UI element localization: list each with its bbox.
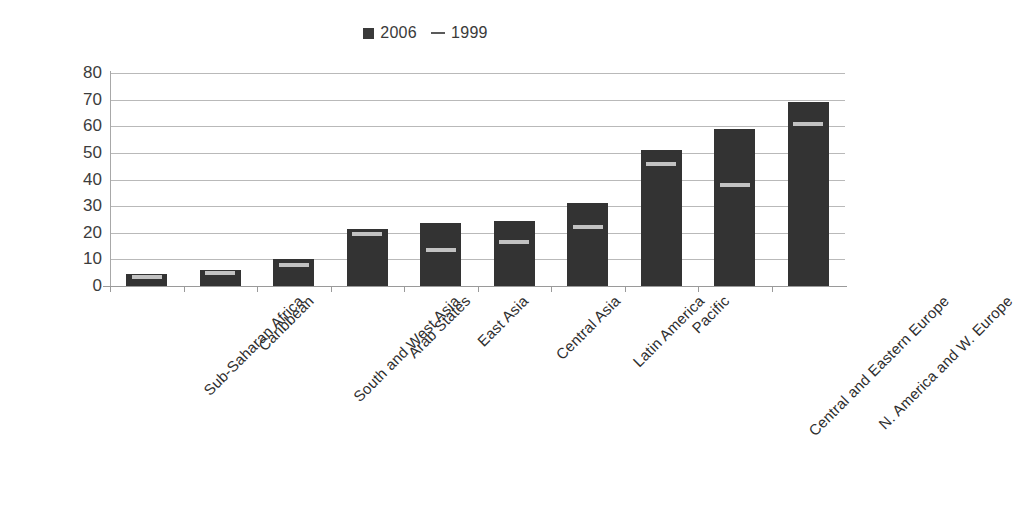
marker-1999 [499, 240, 529, 244]
marker-1999 [279, 263, 309, 267]
bar-group [698, 73, 772, 286]
marker-1999 [646, 162, 676, 166]
marker-1999 [352, 232, 382, 236]
x-axis-category-labels: Sub-Saharan AfricaCaribbeanSouth and Wes… [110, 292, 845, 492]
bar-2006[interactable] [641, 150, 682, 286]
marker-1999 [426, 248, 456, 252]
bar-group [110, 73, 184, 286]
bar-2006[interactable] [788, 102, 829, 286]
y-axis-tick-labels: 80706050403020100 [58, 64, 102, 286]
y-axis-tick-label: 0 [93, 276, 102, 296]
y-axis-tick-label: 80 [83, 63, 102, 83]
bar-2006[interactable] [347, 229, 388, 286]
marker-1999 [793, 122, 823, 126]
y-axis-tick-label: 30 [83, 196, 102, 216]
y-axis-tick-label: 10 [83, 249, 102, 269]
bar-group [257, 73, 331, 286]
bar-2006[interactable] [494, 221, 535, 286]
bar-2006[interactable] [714, 129, 755, 286]
bar-group [551, 73, 625, 286]
bar-group [625, 73, 699, 286]
bar-2006[interactable] [200, 270, 241, 286]
bars-layer [110, 73, 845, 286]
x-axis-line [103, 286, 847, 287]
bar-2006[interactable] [273, 259, 314, 286]
bar-2006[interactable] [126, 274, 167, 286]
bar-group [331, 73, 405, 286]
marker-1999 [573, 225, 603, 229]
x-axis-category-label: East Asia [474, 292, 532, 350]
bar-group [184, 73, 258, 286]
bar-2006[interactable] [420, 223, 461, 286]
y-axis-tick-label: 20 [83, 223, 102, 243]
marker-1999 [205, 271, 235, 275]
bar-group [772, 73, 846, 286]
bar-group [478, 73, 552, 286]
x-axis-category-label: N. America and W. Europe [875, 292, 1015, 432]
y-axis-tick-label: 50 [83, 143, 102, 163]
y-axis-tick-label: 70 [83, 90, 102, 110]
bar-2006[interactable] [567, 203, 608, 286]
marker-1999 [720, 183, 750, 187]
y-axis-tick-label: 40 [83, 170, 102, 190]
bar-group [404, 73, 478, 286]
y-axis-tick-label: 60 [83, 116, 102, 136]
x-axis-category-label: Central Asia [553, 292, 624, 363]
marker-1999 [132, 275, 162, 279]
